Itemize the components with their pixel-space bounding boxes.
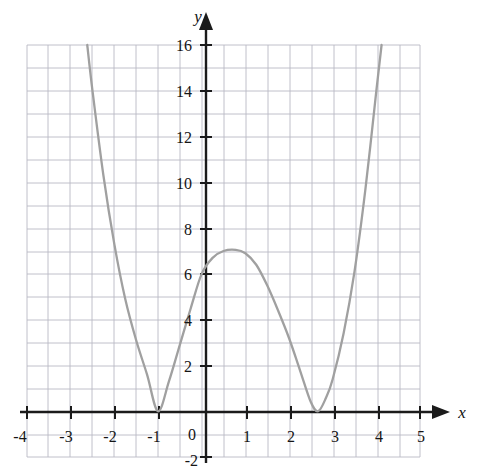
x-tick-label--3: -3	[59, 428, 72, 445]
x-tick-label-4: 4	[375, 428, 383, 445]
x-tick-label-2: 2	[287, 428, 295, 445]
x-tick-label-1: 1	[243, 428, 251, 445]
x-axis-label: x	[457, 403, 466, 422]
x-tick-label--1: -1	[147, 428, 160, 445]
x-tick-label-3: 3	[331, 428, 339, 445]
x-tick-label--4: -4	[13, 428, 26, 445]
origin-label: 0	[188, 426, 196, 443]
y-tick-label-4: 4	[184, 312, 192, 329]
graph-figure: y x -4 -3 -2 -1 1 2 3 4 5 0 16 14 12 10 …	[0, 0, 478, 473]
y-tick-label-14: 14	[176, 83, 192, 100]
y-tick-label-2: 2	[184, 358, 192, 375]
x-tick-label-5: 5	[417, 428, 425, 445]
y-tick-label-12: 12	[176, 129, 192, 146]
y-tick-label-10: 10	[176, 175, 192, 192]
y-tick-label-16: 16	[176, 37, 192, 54]
y-tick-label-6: 6	[184, 266, 192, 283]
y-axis-label: y	[192, 7, 202, 26]
figure-background	[0, 0, 478, 473]
x-tick-label--2: -2	[103, 428, 116, 445]
y-tick-label-8: 8	[184, 221, 192, 238]
y-tick-label--2: -2	[185, 452, 198, 469]
